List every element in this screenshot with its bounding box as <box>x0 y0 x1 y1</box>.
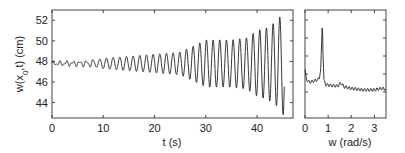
x-tick-label: 10 <box>97 122 109 134</box>
y-tick-label: 44 <box>36 97 48 109</box>
time-series-panel: 4446485052 010203040 t (s) w(x0,t) (cm) <box>13 10 293 148</box>
spectrum-panel: 0123 w (rad/s) <box>302 10 386 148</box>
time-series-axes-box <box>52 10 293 118</box>
y-tick-label: 46 <box>36 76 48 88</box>
spectrum-x-label: w (rad/s) <box>328 136 372 148</box>
y-tick-label: 48 <box>36 55 48 67</box>
x-tick-label: 1 <box>325 122 331 134</box>
time-series-x-label: t (s) <box>163 136 182 148</box>
x-tick-label: 3 <box>371 122 377 134</box>
y-tick-label: 52 <box>36 14 48 26</box>
x-tick-label: 20 <box>148 122 160 134</box>
x-tick-label: 0 <box>49 122 55 134</box>
figure: 4446485052 010203040 t (s) w(x0,t) (cm) … <box>0 0 405 153</box>
y-tick-label: 50 <box>36 35 48 47</box>
x-tick-label: 40 <box>251 122 263 134</box>
spectrum-axes-box <box>305 10 386 118</box>
time-series-y-label: w(x0,t) (cm) <box>13 36 30 93</box>
x-tick-label: 30 <box>200 122 212 134</box>
x-tick-label: 0 <box>302 122 308 134</box>
x-tick-label: 2 <box>348 122 354 134</box>
